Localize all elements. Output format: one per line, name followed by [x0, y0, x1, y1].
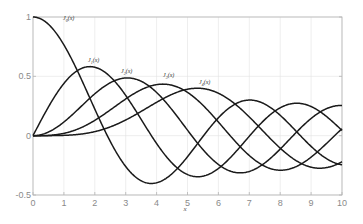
y-tick-label: 0: [26, 131, 31, 141]
curve-label: J2(x): [121, 68, 132, 76]
x-tick-label: 3: [123, 198, 128, 208]
x-tick-label: 1: [61, 198, 66, 208]
x-tick-label: 0: [30, 198, 35, 208]
grid-lines: [33, 17, 342, 195]
bessel-chart: 012345678910 -0.500.51 J0(x)J1(x)J2(x)J3…: [0, 0, 363, 224]
curve-label: J0(x): [63, 15, 74, 23]
x-tick-label: 7: [247, 198, 252, 208]
y-tick-label: -0.5: [15, 190, 31, 200]
curve-label: J4(x): [199, 79, 210, 87]
x-tick-label: 6: [216, 198, 221, 208]
x-tick-label: 8: [278, 198, 283, 208]
curve-label: J3(x): [163, 72, 174, 80]
x-tick-label: 9: [309, 198, 314, 208]
curve-labels: J0(x)J1(x)J2(x)J3(x)J4(x): [63, 15, 210, 87]
y-tick-labels: -0.500.51: [15, 12, 31, 200]
x-tick-label: 10: [337, 198, 347, 208]
x-tick-label: 4: [154, 198, 159, 208]
curve-label: J1(x): [88, 57, 99, 65]
y-tick-label: 1: [26, 12, 31, 22]
x-tick-labels: 012345678910: [30, 198, 347, 208]
y-tick-label: 0.5: [18, 71, 31, 81]
x-tick-label: 2: [92, 198, 97, 208]
